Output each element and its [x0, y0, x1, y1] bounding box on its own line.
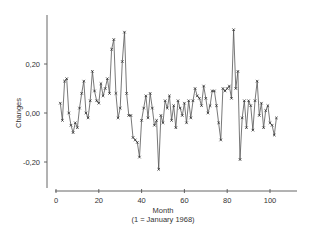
line-chart: 0,200,00-0,20 020406080100 Changes Month…: [0, 0, 313, 240]
series-line: [60, 30, 276, 170]
y-tick-label: 0,00: [25, 109, 40, 118]
x-tick-label: 60: [180, 196, 188, 205]
y-axis: 0,200,00-0,20: [23, 15, 47, 188]
data-series: [59, 28, 278, 170]
x-axis: 020406080100: [54, 189, 297, 205]
x-tick-label: 80: [223, 196, 231, 205]
x-axis-subtitle: (1 = January 1968): [131, 215, 195, 224]
x-tick-label: 20: [95, 196, 103, 205]
y-tick-label: -0,20: [23, 158, 40, 167]
data-point-marker: [226, 87, 229, 90]
x-tick-label: 0: [54, 196, 58, 205]
y-axis-title: Changes: [14, 98, 23, 128]
y-tick-label: 0,20: [25, 60, 40, 69]
x-axis-title: Month: [153, 206, 174, 215]
data-point-marker: [134, 139, 137, 142]
x-tick-label: 100: [264, 196, 277, 205]
data-point-marker: [224, 90, 227, 93]
x-tick-label: 40: [137, 196, 145, 205]
